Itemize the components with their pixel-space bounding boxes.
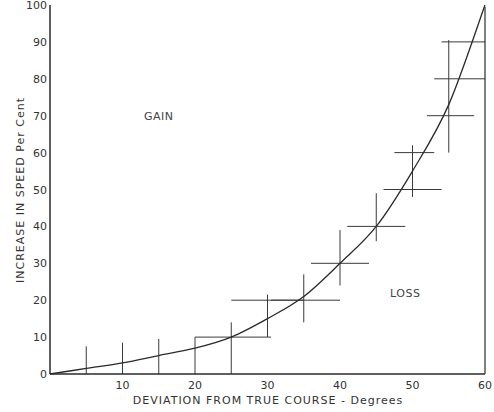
x-tick-label: 40 — [333, 379, 347, 392]
y-tick-label: 10 — [33, 331, 47, 344]
x-tick-label: 20 — [188, 379, 202, 392]
x-tick-label: 10 — [116, 379, 130, 392]
loss-label: LOSS — [390, 287, 420, 300]
x-tick-label: 50 — [406, 379, 420, 392]
tick-labels: 0102030405060708090100102030405060 — [26, 0, 492, 392]
error-bars — [86, 40, 485, 374]
y-tick-label: 20 — [33, 294, 47, 307]
y-tick-label: 70 — [33, 110, 47, 123]
y-tick-label: 30 — [33, 257, 47, 270]
x-tick-label: 30 — [261, 379, 275, 392]
y-tick-label: 40 — [33, 220, 47, 233]
y-tick-label: 60 — [33, 147, 47, 160]
y-tick-label: 100 — [26, 0, 47, 12]
y-tick-label: 90 — [33, 36, 47, 49]
y-tick-label: 80 — [33, 73, 47, 86]
gain-label: GAIN — [144, 110, 174, 123]
x-axis-title: DEVIATION FROM TRUE COURSE - Degrees — [133, 394, 403, 407]
speed-deviation-chart: 0102030405060708090100102030405060 DEVIA… — [0, 0, 494, 412]
x-tick-label: 60 — [478, 379, 492, 392]
y-tick-label: 0 — [40, 368, 47, 381]
y-axis-title: INCREASE IN SPEED Per Cent — [14, 97, 27, 283]
y-tick-label: 50 — [33, 184, 47, 197]
